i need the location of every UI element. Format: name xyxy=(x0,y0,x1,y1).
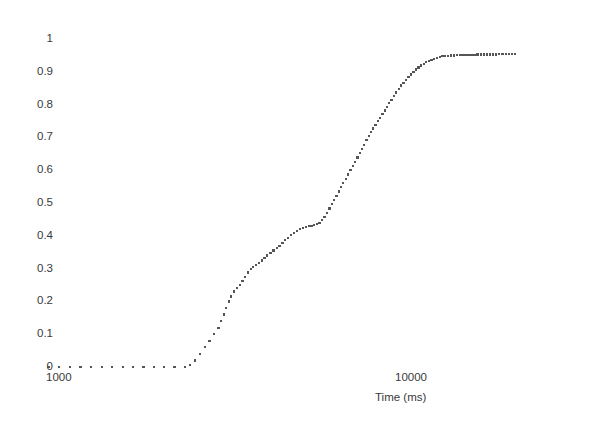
data-point xyxy=(450,54,452,56)
data-point xyxy=(430,59,432,61)
data-point xyxy=(58,366,60,368)
data-point xyxy=(213,333,215,335)
data-point xyxy=(398,88,400,90)
data-point xyxy=(347,173,349,175)
data-point xyxy=(402,82,404,84)
data-point xyxy=(453,54,455,56)
data-point xyxy=(261,259,263,261)
data-point xyxy=(456,54,458,56)
data-point xyxy=(405,79,407,81)
data-point xyxy=(122,366,124,368)
data-point xyxy=(415,68,417,70)
data-point xyxy=(514,53,516,55)
data-point xyxy=(508,53,510,55)
data-point xyxy=(363,144,365,146)
data-point xyxy=(233,290,235,292)
data-point xyxy=(228,300,230,302)
data-point xyxy=(489,53,491,55)
data-point xyxy=(467,54,469,56)
data-point xyxy=(395,91,397,93)
data-point xyxy=(241,280,243,282)
data-point-markers xyxy=(47,53,516,368)
data-point xyxy=(352,165,354,167)
data-point xyxy=(184,366,186,368)
data-point xyxy=(328,207,330,209)
data-point xyxy=(194,359,196,361)
data-point xyxy=(349,169,351,171)
data-point xyxy=(410,73,412,75)
data-point xyxy=(368,135,370,137)
data-point xyxy=(381,113,383,115)
data-point xyxy=(308,225,310,227)
data-point xyxy=(388,102,390,104)
data-point xyxy=(470,54,472,56)
data-point xyxy=(223,313,225,315)
chart-figure: 10.90.80.70.60.50.40.30.20.10 100010000 … xyxy=(0,0,616,425)
data-point xyxy=(278,245,280,247)
data-point xyxy=(236,287,238,289)
x-axis-tick-10000: 10000 xyxy=(395,372,427,384)
data-point xyxy=(428,60,430,62)
data-point xyxy=(433,58,435,60)
data-point xyxy=(441,55,443,57)
plot-area xyxy=(0,0,616,425)
data-point xyxy=(335,195,337,197)
data-point xyxy=(417,66,419,68)
data-point xyxy=(199,353,201,355)
data-point xyxy=(296,230,298,232)
data-point xyxy=(318,222,320,224)
data-point xyxy=(439,56,441,58)
data-point xyxy=(361,148,363,150)
data-point xyxy=(511,53,513,55)
data-point xyxy=(356,156,358,158)
data-point xyxy=(412,71,414,73)
data-point xyxy=(266,254,268,256)
data-point xyxy=(313,224,315,226)
data-point xyxy=(281,242,283,244)
data-point xyxy=(299,228,301,230)
data-point xyxy=(331,203,333,205)
data-point xyxy=(302,227,304,229)
data-point xyxy=(252,266,254,268)
data-point xyxy=(230,295,232,297)
data-point xyxy=(338,190,340,192)
data-point xyxy=(486,53,488,55)
data-point xyxy=(189,364,191,366)
data-point xyxy=(323,216,325,218)
data-point xyxy=(498,53,500,55)
data-point xyxy=(204,346,206,348)
data-point xyxy=(464,54,466,56)
data-point xyxy=(473,54,475,56)
data-point xyxy=(407,76,409,78)
data-point xyxy=(326,212,328,214)
data-point xyxy=(384,109,386,111)
data-point xyxy=(476,53,478,55)
x-axis-tick-1000: 1000 xyxy=(46,372,72,384)
data-point xyxy=(255,264,257,266)
data-point xyxy=(79,366,81,368)
data-point xyxy=(142,366,144,368)
data-point xyxy=(263,257,265,259)
data-point xyxy=(321,219,323,221)
data-point xyxy=(423,63,425,65)
data-point xyxy=(272,249,274,251)
data-point xyxy=(436,57,438,59)
data-point xyxy=(284,239,286,241)
data-point xyxy=(111,366,113,368)
data-point xyxy=(310,225,312,227)
data-point xyxy=(290,234,292,236)
data-point xyxy=(379,117,381,119)
data-point xyxy=(390,99,392,101)
data-point xyxy=(377,120,379,122)
data-point xyxy=(163,366,165,368)
data-point xyxy=(365,139,367,141)
scatter-series-canvas xyxy=(0,0,616,425)
data-point xyxy=(333,199,335,201)
data-point xyxy=(483,53,485,55)
data-point xyxy=(269,252,271,254)
data-point xyxy=(425,61,427,63)
data-point xyxy=(420,64,422,66)
data-point xyxy=(459,54,461,56)
data-point xyxy=(69,366,71,368)
data-point xyxy=(345,178,347,180)
